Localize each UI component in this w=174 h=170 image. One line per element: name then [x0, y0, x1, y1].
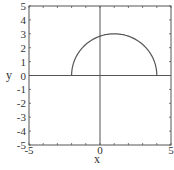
- x-axis-label: x: [94, 152, 100, 166]
- y-axis-label: y: [6, 68, 12, 82]
- y-tick-label: -1: [17, 83, 26, 95]
- x-tick-label: -5: [24, 144, 34, 156]
- y-tick-label: 5: [21, 0, 27, 12]
- y-tick-label: 1: [21, 56, 27, 68]
- y-tick-label: 4: [21, 14, 27, 26]
- x-tick-label: 5: [168, 144, 174, 156]
- y-tick-label: 2: [21, 42, 27, 54]
- semicircle-curve: [72, 34, 157, 76]
- y-tick-label: 0: [21, 70, 27, 82]
- y-tick-label: 3: [21, 28, 27, 40]
- zero-axes: [29, 6, 171, 145]
- y-tick-label: -2: [17, 97, 26, 109]
- y-tick-label: -3: [17, 111, 27, 123]
- y-tick-label: -4: [17, 125, 27, 137]
- y-tick-labels: 543210-1-2-3-4-5: [17, 0, 27, 151]
- chart: 543210-1-2-3-4-5 -505 y x: [0, 0, 174, 170]
